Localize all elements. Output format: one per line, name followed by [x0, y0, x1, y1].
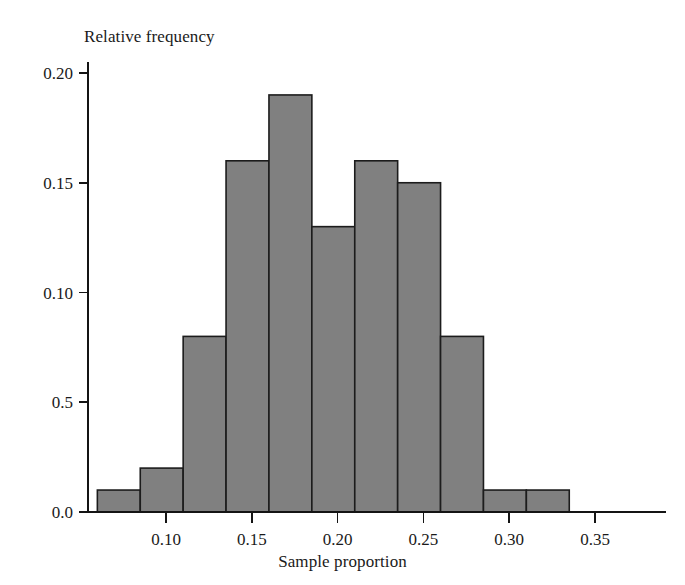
x-tick-label: 0.10 — [151, 530, 181, 549]
y-tick-label: 0.20 — [43, 64, 73, 83]
y-tick-label: 0.0 — [52, 503, 73, 522]
y-tick-labels: 0.00.50.100.150.20 — [43, 64, 73, 522]
y-tick-label: 0.15 — [43, 174, 73, 193]
x-tick-label: 0.15 — [237, 530, 267, 549]
bars-group — [97, 95, 569, 512]
histogram-chart: Relative frequency 0.00.50.100.150.20 0.… — [0, 0, 685, 585]
x-tick-label: 0.30 — [494, 530, 524, 549]
histogram-bar — [398, 183, 441, 512]
histogram-bar — [140, 468, 183, 512]
x-tick-label: 0.25 — [409, 530, 439, 549]
histogram-bar — [526, 490, 569, 512]
x-tick-label: 0.35 — [580, 530, 610, 549]
histogram-bar — [483, 490, 526, 512]
histogram-bar — [441, 336, 484, 512]
y-tick-label: 0.10 — [43, 284, 73, 303]
histogram-bar — [97, 490, 140, 512]
plot-area: 0.00.50.100.150.20 0.100.150.200.250.300… — [0, 0, 685, 585]
x-axis-title: Sample proportion — [0, 552, 685, 572]
x-tick-labels: 0.100.150.200.250.300.35 — [151, 530, 610, 549]
histogram-bar — [269, 95, 312, 512]
histogram-bar — [183, 336, 226, 512]
histogram-bar — [312, 227, 355, 512]
x-tick-label: 0.20 — [323, 530, 353, 549]
histogram-bar — [355, 161, 398, 512]
y-tick-label: 0.5 — [52, 393, 73, 412]
histogram-bar — [226, 161, 269, 512]
